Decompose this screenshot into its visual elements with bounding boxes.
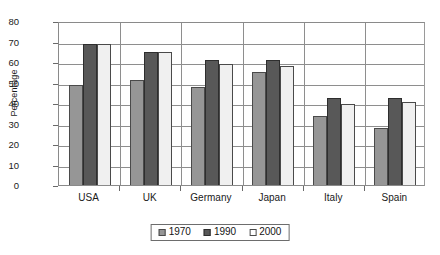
y-axis-tick-mark	[53, 186, 58, 187]
category-separator	[120, 23, 121, 185]
category-label-spain: Spain	[364, 192, 425, 203]
x-axis-tick-mark	[364, 186, 365, 191]
legend-label-1990: 1990	[214, 227, 236, 237]
y-axis-tick-label: 80	[0, 17, 19, 27]
y-axis-tick-label: 20	[0, 140, 19, 150]
bar-spain-1990	[388, 98, 402, 185]
category-separator	[365, 23, 366, 185]
bar-uk-1990	[144, 52, 158, 185]
y-axis-tick-label: 30	[0, 120, 19, 130]
bar-japan-2000	[280, 66, 294, 185]
y-axis-tick-label: 50	[0, 79, 19, 89]
category-separator	[243, 23, 244, 185]
category-label-germany: Germany	[180, 192, 241, 203]
y-axis-tick-label: 40	[0, 99, 19, 109]
legend-swatch-2000	[249, 229, 256, 236]
y-axis-tick-label: 60	[0, 58, 19, 68]
bar-spain-1970	[374, 128, 388, 185]
bar-uk-1970	[130, 80, 144, 185]
legend-swatch-1990	[204, 229, 211, 236]
legend-entry-1990: 1990	[204, 227, 236, 237]
y-axis-tick-label: 10	[0, 161, 19, 171]
category-label-usa: USA	[58, 192, 119, 203]
x-axis-tick-mark	[242, 186, 243, 191]
legend-entry-2000: 2000	[249, 227, 281, 237]
legend-entry-1970: 1970	[159, 227, 191, 237]
bar-usa-1990	[83, 44, 97, 185]
bar-italy-2000	[341, 104, 355, 185]
plot-area	[58, 22, 425, 186]
x-axis-tick-mark	[303, 186, 304, 191]
bar-usa-2000	[97, 44, 111, 185]
bar-japan-1970	[252, 72, 266, 185]
bar-chart: Percentage 01020304050607080 USAUKGerman…	[0, 0, 440, 255]
category-separator	[304, 23, 305, 185]
y-axis-title: Percentage	[9, 33, 19, 153]
gridline	[59, 146, 424, 147]
bar-usa-1970	[69, 85, 83, 185]
bar-japan-1990	[266, 60, 280, 185]
legend-label-2000: 2000	[259, 227, 281, 237]
legend-swatch-1970	[159, 229, 166, 236]
x-axis-tick-mark	[180, 186, 181, 191]
category-label-japan: Japan	[242, 192, 303, 203]
chart-legend: 197019902000	[151, 224, 290, 241]
legend-label-1970: 1970	[169, 227, 191, 237]
gridline	[59, 44, 424, 45]
y-axis-tick-label: 0	[0, 181, 19, 191]
gridline	[59, 167, 424, 168]
category-label-uk: UK	[119, 192, 180, 203]
gridline	[59, 105, 424, 106]
bar-italy-1990	[327, 98, 341, 185]
gridline	[59, 85, 424, 86]
category-separator	[181, 23, 182, 185]
bar-germany-1990	[205, 60, 219, 185]
y-axis-tick-label: 70	[0, 38, 19, 48]
bar-italy-1970	[313, 116, 327, 185]
bar-uk-2000	[158, 52, 172, 185]
bar-germany-1970	[191, 87, 205, 185]
gridline	[59, 64, 424, 65]
bar-spain-2000	[402, 102, 416, 185]
x-axis-tick-mark	[119, 186, 120, 191]
bar-germany-2000	[219, 64, 233, 185]
category-label-italy: Italy	[303, 192, 364, 203]
gridline	[59, 126, 424, 127]
